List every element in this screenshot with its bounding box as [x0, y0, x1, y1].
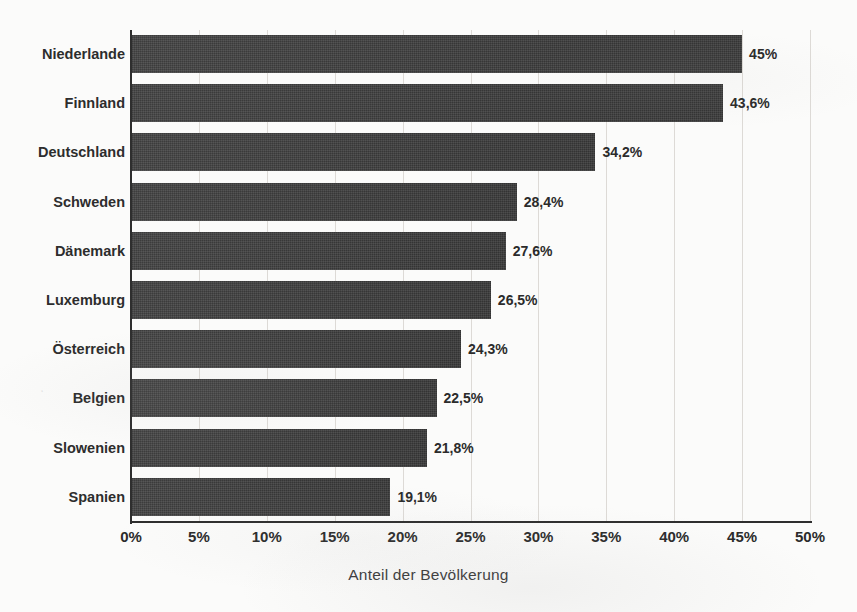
x-tick-label: 10%: [252, 528, 282, 545]
category-label: Deutschland: [5, 128, 125, 177]
bar[interactable]: [131, 281, 491, 319]
x-tick-label: 40%: [659, 528, 689, 545]
bar[interactable]: [131, 84, 723, 122]
x-tick-label: 0%: [120, 528, 142, 545]
bar-slot: 34,2%: [131, 128, 810, 177]
bar-value-label: 24,3%: [461, 330, 508, 368]
bar-slot: 28,4%: [131, 178, 810, 227]
category-label: Niederlande: [5, 30, 125, 79]
bar[interactable]: [131, 183, 517, 221]
category-axis-labels: NiederlandeFinnlandDeutschlandSchwedenDä…: [0, 30, 125, 522]
bar-value-label: 28,4%: [517, 183, 564, 221]
x-tick-label: 15%: [320, 528, 350, 545]
y-axis-line: [130, 30, 132, 524]
bar[interactable]: [131, 330, 461, 368]
x-tick-label: 50%: [795, 528, 825, 545]
bar-value-label: 21,8%: [427, 429, 474, 467]
bar[interactable]: [131, 478, 390, 516]
category-label: Spanien: [5, 473, 125, 522]
bar[interactable]: [131, 133, 595, 171]
category-label: Dänemark: [5, 227, 125, 276]
category-label: Belgien: [5, 374, 125, 423]
x-tick-label: 30%: [523, 528, 553, 545]
bar[interactable]: [131, 429, 427, 467]
category-label: Luxemburg: [5, 276, 125, 325]
bar-value-label: 19,1%: [390, 478, 437, 516]
x-tick-label: 35%: [591, 528, 621, 545]
x-axis-title: Anteil der Bevölkerung: [0, 566, 857, 584]
bar-slot: 22,5%: [131, 374, 810, 423]
bar-value-label: 43,6%: [723, 84, 770, 122]
category-label: Schweden: [5, 178, 125, 227]
bar-slot: 43,6%: [131, 79, 810, 128]
x-tick-label: 5%: [188, 528, 210, 545]
bar-slot: 21,8%: [131, 424, 810, 473]
gridline-50: [810, 30, 811, 522]
category-label: Slowenien: [5, 424, 125, 473]
x-axis-line: [130, 521, 812, 523]
bar-value-label: 45%: [742, 35, 777, 73]
bar[interactable]: [131, 35, 742, 73]
bar[interactable]: [131, 232, 506, 270]
bar[interactable]: [131, 379, 437, 417]
category-label: Österreich: [5, 325, 125, 374]
x-tick-label: 25%: [455, 528, 485, 545]
x-tick-label: 20%: [388, 528, 418, 545]
bar-slot: 24,3%: [131, 325, 810, 374]
bar-value-label: 34,2%: [595, 133, 642, 171]
x-tick-label: 45%: [727, 528, 757, 545]
bar-slot: 26,5%: [131, 276, 810, 325]
bar-value-label: 26,5%: [491, 281, 538, 319]
chart-page: . NiederlandeFinnlandDeutschlandSchweden…: [0, 0, 857, 612]
bar-slot: 27,6%: [131, 227, 810, 276]
bar-slot: 45%: [131, 30, 810, 79]
bar-value-label: 22,5%: [437, 379, 484, 417]
category-label: Finnland: [5, 79, 125, 128]
bar-value-label: 27,6%: [506, 232, 553, 270]
